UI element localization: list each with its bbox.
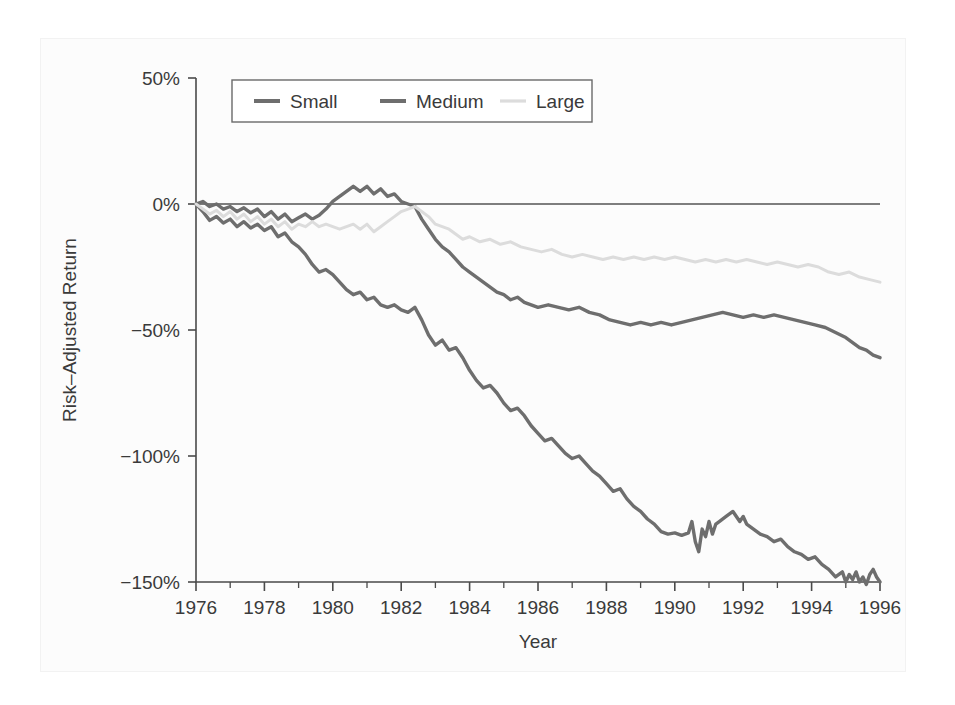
y-tick-label: 50%: [142, 68, 180, 89]
legend[interactable]: SmallMediumLarge: [232, 80, 592, 122]
chart-canvas: 50%0%−50%−100%−150% 19761978198019821984…: [0, 0, 955, 705]
y-tick-label: −150%: [120, 572, 180, 593]
x-tick-label: 1978: [243, 597, 285, 618]
y-axis-title: Risk–Adjusted Return: [59, 238, 80, 422]
x-tick-label: 1988: [585, 597, 627, 618]
y-tick-label: −50%: [131, 320, 180, 341]
x-tick-label: 1992: [722, 597, 764, 618]
data-series-group: [196, 186, 880, 584]
y-tick-label: −100%: [120, 446, 180, 467]
figure-root: 50%0%−50%−100%−150% 19761978198019821984…: [0, 0, 955, 705]
x-axis-title: Year: [519, 631, 558, 652]
x-tick-label: 1976: [175, 597, 217, 618]
x-tick-label: 1986: [517, 597, 559, 618]
legend-label-small[interactable]: Small: [290, 91, 338, 112]
axis-tick-marks: [188, 78, 880, 591]
legend-label-large[interactable]: Large: [536, 91, 585, 112]
x-tick-label: 1994: [790, 597, 833, 618]
x-tick-label: 1990: [654, 597, 696, 618]
series-line-medium: [196, 186, 880, 357]
series-line-large: [196, 204, 880, 282]
y-tick-label: 0%: [153, 194, 181, 215]
x-tick-label: 1996: [859, 597, 901, 618]
legend-label-medium[interactable]: Medium: [416, 91, 484, 112]
x-tick-label: 1982: [380, 597, 422, 618]
x-axis-tick-labels: 1976197819801982198419861988199019921994…: [175, 597, 901, 618]
x-tick-label: 1980: [312, 597, 354, 618]
x-tick-label: 1984: [448, 597, 491, 618]
axis-lines: [196, 78, 880, 582]
y-axis-tick-labels: 50%0%−50%−100%−150%: [120, 68, 180, 593]
